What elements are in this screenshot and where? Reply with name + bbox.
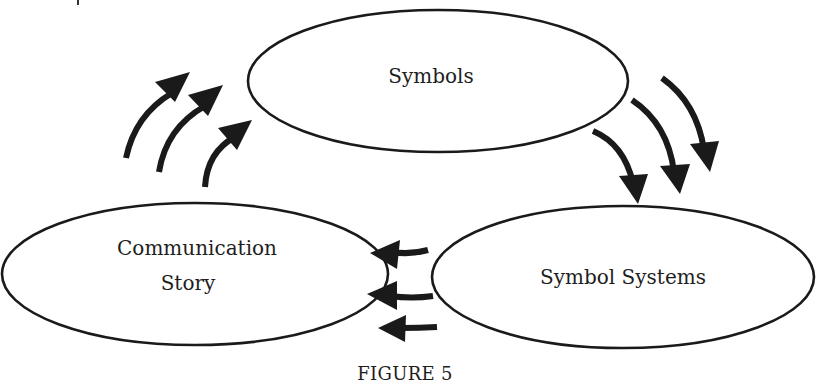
cycle-diagram: Symbols Communication Story Symbol Syste… xyxy=(0,0,816,388)
arrow-left-icon xyxy=(378,315,437,342)
figure-caption: FIGURE 5 xyxy=(357,363,452,384)
node-label-symbols: Symbols xyxy=(388,64,473,88)
node-label-communication: Communication xyxy=(117,236,277,260)
node-symbols: Symbols xyxy=(248,10,628,152)
node-symbol-systems: Symbol Systems xyxy=(432,206,814,348)
node-label-symbol-systems: Symbol Systems xyxy=(540,265,706,289)
arrow-down-right-icon xyxy=(593,131,648,204)
arrow-up-right-icon xyxy=(126,72,190,158)
node-label-story: Story xyxy=(161,271,216,295)
arrow-group-story-to-symbols xyxy=(126,72,252,187)
node-communication-story: Communication Story xyxy=(2,203,388,345)
arrow-group-symbol-systems-to-story xyxy=(367,240,437,342)
arrow-up-right-icon xyxy=(205,120,252,187)
